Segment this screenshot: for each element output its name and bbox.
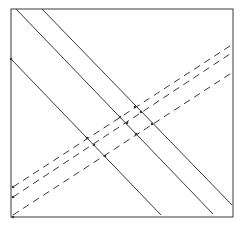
solid-line: [42, 9, 232, 205]
intersection-dot: [119, 116, 122, 119]
intersection-dot: [86, 137, 89, 140]
intersection-dot: [12, 186, 15, 189]
dashed-line: [13, 44, 233, 187]
intersection-dot: [12, 196, 15, 199]
intersection-dot: [10, 58, 13, 61]
intersection-dot: [104, 155, 107, 158]
intersection-dot: [135, 133, 138, 136]
dashed-line: [13, 72, 233, 215]
solid-line: [16, 9, 213, 214]
solid-diagonal-lines: [11, 9, 232, 215]
line-diagram: [0, 0, 243, 225]
dashed-diagonal-lines: [13, 44, 233, 215]
intersection-dot: [93, 144, 96, 147]
intersection-dot: [140, 111, 143, 114]
square-frame: [11, 9, 233, 217]
intersection-dot: [151, 123, 154, 126]
intersection-dot: [12, 216, 15, 219]
intersection-dot: [126, 122, 129, 125]
intersection-dot: [134, 106, 137, 109]
intersection-points: [10, 58, 154, 219]
